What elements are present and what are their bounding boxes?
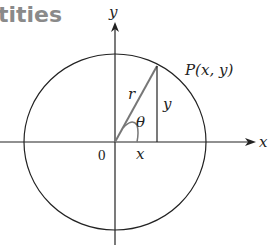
opposite-label: y [162,95,172,113]
origin-label: 0 [98,147,106,163]
radius-label: r [128,85,136,103]
angle-label: θ [136,113,145,131]
adjacent-label: x [136,145,145,163]
point-label: P(x, y) [184,61,233,79]
y-axis-label: y [108,3,118,21]
x-axis-label: x [259,133,268,151]
unit-circle-diagram: y x P(x, y) r y θ 0 x [0,0,269,246]
